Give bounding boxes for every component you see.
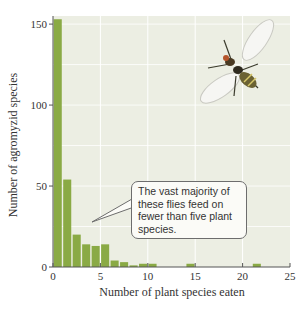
bar [111,261,119,267]
bar [101,244,109,267]
y-axis-title: Number of agromyzid species [6,73,20,218]
y-tick-label: 100 [31,99,48,111]
x-tick-label: 0 [50,270,56,282]
bar [63,180,71,267]
bar [82,244,90,267]
x-tick-label: 25 [285,270,297,282]
x-tick-label: 15 [190,270,202,282]
x-axis-title: Number of plant species eaten [99,285,244,299]
y-tick-label: 0 [42,261,48,273]
bar [73,235,81,267]
bar [54,19,62,267]
x-tick-label: 10 [142,270,154,282]
bar [120,262,128,267]
x-tick-label: 5 [98,270,104,282]
x-tick-label: 20 [237,270,249,282]
annotation-callout: The vast majority of these flies feed on… [131,181,247,239]
bar-chart: 0510152025050100150 Number of plant spec… [0,0,308,300]
bar [92,246,100,267]
y-tick-label: 50 [36,180,48,192]
y-tick-label: 150 [31,18,48,30]
